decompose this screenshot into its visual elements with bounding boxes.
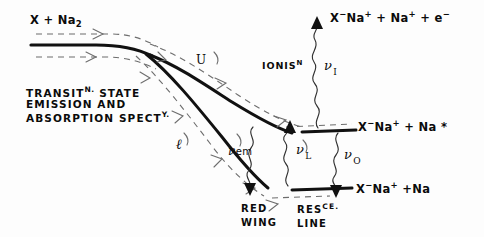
caption-line-3-superscript: Y. [162,110,170,119]
channel-mid-plus: + [400,120,419,134]
channel-mid-na-excited: Na [419,120,437,134]
nu-emission-label: νem [228,145,252,158]
channel-mid-na: Na [375,120,393,134]
channel-top-na1: Na [347,11,365,25]
trajectory-dashed-upper [150,44,302,127]
caption-line-1-tail: STATE [94,87,140,99]
nu-output-symbol: ν [344,147,352,162]
channel-top-electron: e [435,11,443,25]
channel-bot-na-ground: Na [412,182,430,196]
nu-laser-symbol: ν [296,142,304,157]
branch-tick-upper [214,52,218,64]
nu-output-subscript: O [353,156,361,166]
channel-label-ionisation: X−Na+ + Na+ + e− [330,10,450,25]
red-wing-line-2: WING [241,216,277,230]
caption-line-1-text: TRANSIT [26,87,85,99]
ionisation-label-superscript: N [296,59,303,67]
entrance-channel-text: X + Na [30,13,76,27]
fluorescence-line-2: LINE [297,217,339,231]
channel-mid-na-superscript: + [393,118,400,128]
channel-bot-na: Na [373,182,391,196]
caption-line-1-superscript: N. [85,85,95,94]
caption-block: TRANSITN. STATE EMISSION AND ABSORPTION … [26,86,170,124]
fluorescence-line-1-text: RES [297,204,322,215]
branch-tick-lower [184,133,188,145]
fluorescence-line-1: RESCE. [297,202,339,217]
nu-ionisation-subscript: I [333,67,337,77]
red-wing-annotation: RED WING [241,202,277,229]
channel-bot-x: X [356,182,365,196]
channel-label-excited: X−Na+ + Na * [358,119,447,134]
nu-ionisation-symbol: ν [324,58,332,73]
fluorescence-line-annotation: RESCE. LINE [297,202,339,230]
trajectory-arrowhead-lower-2 [172,111,183,123]
fluorescence-line-1-superscript: CE. [322,202,339,211]
channel-top-plus1: + [372,11,391,25]
output-wavy-arrow [333,133,339,188]
channel-bot-plus: + [398,182,412,196]
output-arrowhead [330,185,342,198]
nu-output-label: νO [344,148,360,163]
caption-line-3: ABSORPTION SPECTY. [26,111,170,124]
nu-laser-label: νL [296,143,311,158]
nu-emission-subscript: em [236,146,253,157]
nu-ionisation-label: νI [324,59,336,74]
channel-top-na1-superscript: + [365,9,372,19]
channel-top-plus2: + [416,11,435,25]
channel-bot-x-superscript: − [365,180,372,190]
channel-bot-na-superscript: + [391,180,398,190]
lower-branch-label: ℓ [176,137,182,153]
channel-top-na2: Na [391,11,409,25]
ionisation-wavy-arrow [312,26,319,128]
level-line-bottom [272,188,352,198]
channel-top-electron-superscript: − [443,9,450,19]
caption-line-1: TRANSITN. STATE [26,86,170,99]
channel-top-na2-superscript: + [409,9,416,19]
caption-line-2: EMISSION AND [26,99,170,111]
entrance-channel-label: X + Na2 [30,14,82,30]
potential-curve-diagram: X + Na2 TRANSITN. STATE EMISSION AND ABS… [0,0,484,237]
channel-mid-star: * [437,120,448,134]
nu-emission-symbol: ν [228,144,236,158]
ionisation-arrowhead [311,16,323,29]
trajectory-arrowhead-lower-3 [211,155,222,167]
channel-label-ground: X−Na+ +Na [356,181,430,196]
trajectory-dashed-lower [136,56,264,196]
ionisation-label-text: IONIS [262,60,296,71]
channel-top-x-superscript: − [339,9,346,19]
red-wing-line-1: RED [241,202,277,216]
entrance-channel-subscript: 2 [76,19,82,29]
trajectory-arrowhead-lower-1 [140,72,150,83]
channel-top-x: X [330,11,339,25]
upper-branch-label: U [196,54,207,67]
channel-mid-x: X [358,120,367,134]
laser-wavy-arrow [284,131,289,186]
caption-line-3-text: ABSORPTION SPECT [26,112,162,124]
ionisation-label: IONISN [262,60,303,72]
channel-mid-x-superscript: − [367,118,374,128]
nu-laser-subscript: L [305,151,311,161]
